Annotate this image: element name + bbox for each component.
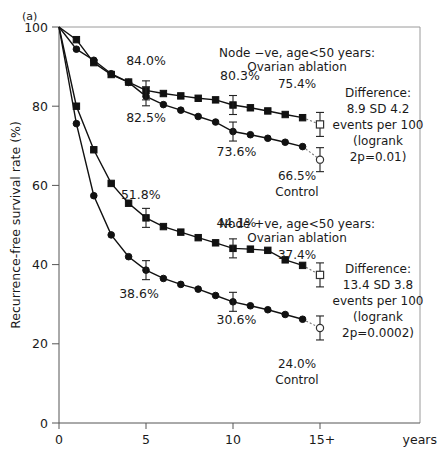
data-point-2-9 bbox=[212, 240, 218, 246]
node-neg-diff-line2: 8.9 SD 4.2 bbox=[347, 102, 410, 116]
data-point-2-6 bbox=[160, 223, 166, 229]
data-point-3-3 bbox=[108, 232, 115, 239]
node-pos-diff-line3: events per 100 bbox=[333, 294, 424, 308]
data-point-1-12 bbox=[265, 135, 272, 142]
node-pos-diff-line5: 2p=0.0002) bbox=[342, 326, 414, 340]
series-line-1 bbox=[59, 27, 303, 147]
x-tick-label-5: 5 bbox=[142, 432, 150, 447]
panel-label: (a) bbox=[22, 10, 37, 23]
annotation-node-pos-difference: Difference: 13.4 SD 3.8 events per 100 (… bbox=[333, 262, 424, 340]
node-neg-ablation-value: 75.4% bbox=[278, 77, 316, 91]
data-point-1-9 bbox=[212, 119, 219, 126]
node-neg-diff-line4: (logrank bbox=[353, 134, 403, 148]
data-point-1-4 bbox=[125, 79, 132, 86]
data-point-3-14 bbox=[299, 316, 306, 323]
annotation-node-pos-control: 24.0% Control bbox=[275, 357, 318, 387]
point-label-7: 30.6% bbox=[217, 312, 257, 327]
data-point-1-14 bbox=[299, 143, 306, 150]
data-point-1-3 bbox=[108, 70, 115, 77]
figure-panel: 0 20 40 60 80 100 0 5 10 15+ years Recur… bbox=[0, 0, 442, 466]
node-neg-control-value: 66.5% bbox=[278, 169, 316, 183]
point-label-5: 38.6% bbox=[119, 286, 159, 301]
y-tick-label-20: 20 bbox=[32, 336, 48, 351]
y-tick-label-80: 80 bbox=[32, 99, 48, 114]
data-point-0-12 bbox=[265, 108, 271, 114]
y-axis-ticks: 0 20 40 60 80 100 bbox=[24, 20, 59, 431]
point-label-0: 84.0% bbox=[126, 53, 166, 68]
node-pos-diff-line2: 13.4 SD 3.8 bbox=[343, 278, 413, 292]
data-point-2-3 bbox=[108, 180, 114, 186]
data-point-2-14 bbox=[299, 262, 305, 268]
y-tick-label-0: 0 bbox=[40, 416, 48, 431]
data-point-1-13 bbox=[282, 139, 289, 146]
point-label-layer: 84.0%82.5%80.3%73.6%51.8%38.6%44.1%30.6% bbox=[119, 53, 260, 327]
node-neg-diff-line3: events per 100 bbox=[333, 118, 424, 132]
point-label-1: 82.5% bbox=[126, 110, 166, 125]
data-point-0-7 bbox=[178, 93, 184, 99]
data-point-0-14 bbox=[299, 114, 305, 120]
data-point-1-1 bbox=[73, 46, 80, 53]
data-point-2-8 bbox=[195, 234, 201, 240]
node-neg-title-line1: Node −ve, age<50 years: bbox=[219, 46, 375, 60]
node-pos-ablation-value: 37.4% bbox=[278, 248, 316, 262]
data-point-0-11 bbox=[247, 105, 253, 111]
node-neg-diff-line1: Difference: bbox=[345, 86, 411, 100]
data-point-0-13 bbox=[282, 111, 288, 117]
data-point-2-12 bbox=[265, 247, 271, 253]
x-tick-label-10: 10 bbox=[225, 432, 241, 447]
node-pos-diff-line1: Difference: bbox=[345, 262, 411, 276]
data-point-3-8 bbox=[195, 286, 202, 293]
node-pos-control-value: 24.0% bbox=[278, 357, 316, 371]
endpoint-marker-3 bbox=[316, 324, 323, 331]
node-pos-diff-line4: (logrank bbox=[353, 310, 403, 324]
node-pos-title-line1: Node +ve, age<50 years: bbox=[219, 217, 375, 231]
y-tick-label-40: 40 bbox=[32, 257, 48, 272]
point-label-4: 51.8% bbox=[121, 187, 161, 202]
data-point-3-13 bbox=[282, 311, 289, 318]
data-point-0-1 bbox=[73, 36, 79, 42]
node-neg-control-label: Control bbox=[275, 185, 318, 199]
data-point-1-2 bbox=[91, 57, 98, 64]
data-point-3-7 bbox=[178, 281, 185, 288]
data-point-1-6 bbox=[160, 101, 167, 108]
data-point-0-9 bbox=[212, 97, 218, 103]
point-label-3: 73.6% bbox=[217, 144, 257, 159]
endpoint-marker-1 bbox=[316, 156, 323, 163]
recurrence-free-survival-chart: 0 20 40 60 80 100 0 5 10 15+ years Recur… bbox=[0, 0, 442, 466]
data-point-2-2 bbox=[91, 147, 97, 153]
x-axis-ticks: 0 5 10 15+ years bbox=[55, 423, 437, 447]
data-point-2-7 bbox=[178, 229, 184, 235]
endpoint-marker-2 bbox=[316, 271, 323, 278]
annotation-node-neg-control: 66.5% Control bbox=[275, 169, 318, 199]
node-pos-control-label: Control bbox=[275, 373, 318, 387]
node-neg-diff-line5: 2p=0.01) bbox=[350, 150, 407, 164]
data-point-1-11 bbox=[247, 131, 254, 138]
annotation-node-neg-difference: Difference: 8.9 SD 4.2 events per 100 (l… bbox=[333, 86, 424, 164]
y-axis-title: Recurrence-free survival rate (%) bbox=[8, 121, 23, 329]
data-point-0-8 bbox=[195, 95, 201, 101]
x-axis-units-label: years bbox=[403, 432, 437, 447]
data-point-0-6 bbox=[160, 90, 166, 96]
data-point-3-4 bbox=[125, 253, 132, 260]
x-tick-label-15plus: 15+ bbox=[309, 432, 335, 447]
y-tick-label-60: 60 bbox=[32, 178, 48, 193]
data-point-3-12 bbox=[265, 306, 272, 313]
x-tick-label-0: 0 bbox=[55, 432, 63, 447]
annotation-node-pos-group: Node +ve, age<50 years: Ovarian ablation… bbox=[219, 217, 375, 262]
data-point-3-6 bbox=[160, 275, 167, 282]
data-point-3-9 bbox=[212, 292, 219, 299]
data-point-3-11 bbox=[247, 302, 254, 309]
endpoint-marker-0 bbox=[316, 121, 323, 128]
data-point-3-2 bbox=[91, 192, 98, 199]
data-point-3-1 bbox=[73, 120, 80, 127]
data-point-2-11 bbox=[247, 246, 253, 252]
node-pos-title-line2: Ovarian ablation bbox=[247, 231, 347, 245]
node-neg-title-line2: Ovarian ablation bbox=[247, 60, 347, 74]
data-point-1-8 bbox=[195, 113, 202, 120]
data-point-1-7 bbox=[178, 107, 185, 114]
